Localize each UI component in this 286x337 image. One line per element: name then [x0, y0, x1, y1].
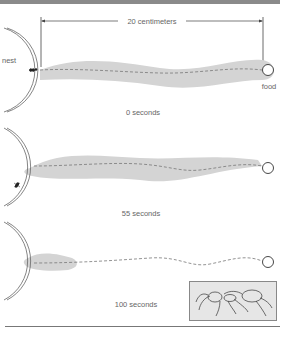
nest-label: nest [2, 56, 17, 65]
time-label-0: 0 seconds [126, 108, 160, 117]
bottom-rule [5, 326, 280, 327]
pheromone-trail [24, 253, 77, 270]
distance-label: 20 centimeters [127, 17, 176, 26]
food-icon [263, 163, 274, 174]
nest-icon [4, 128, 31, 206]
panel-0-seconds: 20 centimeters nest food 0 seconds [2, 17, 276, 117]
ant-icon [14, 182, 20, 189]
pheromone-trail [40, 60, 274, 88]
distance-dimension: 20 centimeters [41, 17, 263, 67]
ant-illustration-inset [189, 281, 277, 321]
time-label-55: 55 seconds [122, 209, 161, 218]
ant-drawing-icon [190, 282, 276, 320]
food-icon [263, 65, 274, 76]
ant-icon [29, 68, 37, 72]
pheromone-trail [24, 155, 262, 181]
food-icon [263, 257, 274, 268]
time-label-100: 100 seconds [115, 300, 158, 309]
food-label: food [262, 82, 277, 91]
panel-55-seconds: 55 seconds [4, 128, 274, 218]
